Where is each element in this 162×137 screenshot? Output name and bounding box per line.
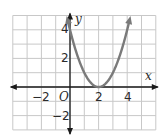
y-tick-2: 2 [61, 52, 69, 64]
y-axis-label: y [75, 13, 82, 25]
x-axis-label: x [145, 70, 152, 82]
y-tick-4: 4 [61, 23, 69, 35]
x-tick-neg2: −2 [32, 91, 50, 103]
origin-label: O [59, 91, 69, 103]
x-tick-2: 2 [95, 91, 103, 103]
y-tick-neg2: −2 [52, 110, 70, 122]
x-tick-4: 4 [124, 91, 132, 103]
